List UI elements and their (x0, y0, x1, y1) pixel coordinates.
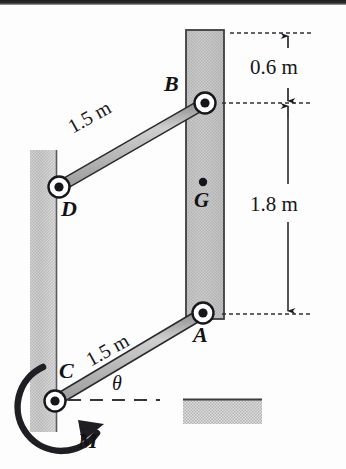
pin-c (45, 391, 66, 412)
pin-d (49, 177, 70, 198)
theta-angle-label: θ (112, 372, 122, 395)
point-label-g: G (194, 188, 209, 213)
dimension-label-bottom: 1.8 m (250, 192, 298, 217)
pin-a (193, 303, 214, 324)
point-label-d: D (61, 196, 77, 222)
point-label-c: C (59, 358, 74, 384)
link-ca (55, 313, 203, 401)
dimension-label-top: 0.6 m (250, 55, 298, 80)
point-label-a: A (193, 322, 208, 348)
center-of-mass-dot (199, 178, 207, 186)
moment-label: M (78, 428, 98, 454)
figure-canvas: 0.6 m 1.8 m 1.5 m 1.5 m B D G A C M θ (0, 0, 346, 469)
vertical-bar (186, 30, 224, 319)
pin-b (195, 93, 216, 114)
ground-support (183, 399, 262, 424)
point-label-b: B (164, 71, 179, 97)
